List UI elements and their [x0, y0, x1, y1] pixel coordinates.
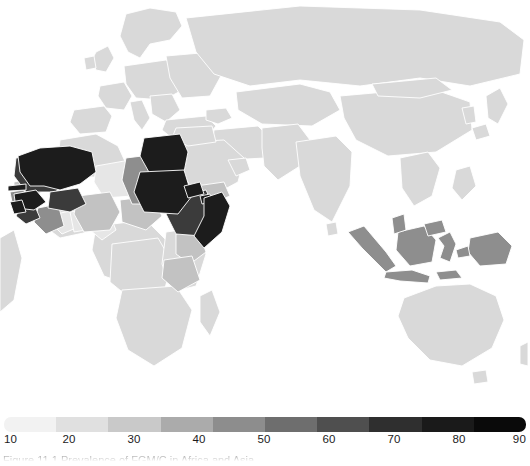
- region-central-asia: [236, 84, 340, 126]
- region-sumatra: [348, 226, 396, 272]
- region-tasmania: [472, 370, 488, 384]
- figure-caption-text: Figure 11.1 Prevalence of FGM/C in Afric…: [3, 455, 527, 466]
- region-ireland: [84, 56, 96, 70]
- region-lesser-sunda: [436, 270, 462, 280]
- region-southern-africa: [116, 286, 192, 366]
- colorbar-band-1: [4, 417, 56, 432]
- region-scandinavia: [120, 8, 182, 58]
- region-russia: [186, 6, 524, 86]
- colorbar-legend: 10 20 30 40 50 60 70 80 90: [0, 417, 530, 451]
- region-china: [340, 88, 472, 156]
- colorbar-band-2: [56, 417, 108, 432]
- region-japan-south: [472, 124, 490, 140]
- map-canvas: [0, 0, 530, 408]
- region-caucasus: [206, 108, 232, 124]
- region-sri-lanka: [326, 222, 338, 236]
- region-south-america-sliver: [0, 230, 22, 312]
- region-maluku: [456, 246, 470, 258]
- colorbar-tick-90: 90: [513, 433, 526, 445]
- region-italy: [130, 100, 150, 130]
- colorbar-band-3: [108, 417, 160, 432]
- region-india: [296, 136, 352, 222]
- region-java: [384, 270, 430, 283]
- figure-world-choropleth: 10 20 30 40 50 60 70 80 90 Figure 11.1 P…: [0, 0, 530, 466]
- colorbar-band-6: [265, 417, 317, 432]
- colorbar-tick-30: 30: [127, 433, 140, 445]
- region-indochina: [400, 152, 440, 206]
- region-balkans: [150, 94, 180, 122]
- region-madagascar: [200, 290, 220, 336]
- colorbar-tick-20: 20: [62, 433, 75, 445]
- colorbar-band-4: [161, 417, 213, 432]
- region-new-zealand: [520, 342, 528, 366]
- colorbar-tick-50: 50: [257, 433, 270, 445]
- figure-caption: Figure 11.1 Prevalence of FGM/C in Afric…: [3, 455, 527, 466]
- region-papua-new-guinea: [468, 232, 512, 266]
- region-malaysia-borneo: [424, 220, 446, 236]
- colorbar-tick-80: 80: [452, 433, 465, 445]
- colorbar-tick-60: 60: [322, 433, 335, 445]
- colorbar-tick-labels: 10 20 30 40 50 60 70 80 90: [0, 433, 530, 451]
- colorbar-tick-10: 10: [4, 433, 17, 445]
- region-sudan: [134, 170, 192, 214]
- colorbar-tick-70: 70: [387, 433, 400, 445]
- region-australia: [398, 284, 504, 366]
- region-sulawesi: [438, 232, 456, 262]
- region-gambia: [8, 184, 26, 191]
- colorbar-gradient: [4, 417, 526, 432]
- colorbar-tick-40: 40: [192, 433, 205, 445]
- colorbar-band-7: [317, 417, 369, 432]
- region-philippines: [452, 166, 476, 200]
- colorbar-band-9: [422, 417, 474, 432]
- region-mali: [18, 146, 96, 190]
- colorbar-band-8: [369, 417, 421, 432]
- colorbar-band-5: [213, 417, 265, 432]
- world-map-svg: [0, 0, 530, 408]
- region-japan: [486, 88, 508, 124]
- colorbar-band-10: [474, 417, 526, 432]
- region-egypt: [140, 134, 188, 174]
- region-iberia: [70, 106, 112, 134]
- region-malaysia-peninsula: [392, 214, 406, 234]
